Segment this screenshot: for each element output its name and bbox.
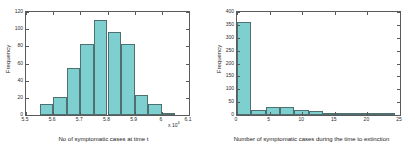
x-tick-label: 0 [235,116,238,122]
histogram-panel-left: 5.55.65.75.85.966.1 020406080100120 x 10… [0,0,207,151]
x-tick-mark [189,112,190,115]
y-tick-label: 0 [9,111,23,117]
histogram-bar [94,20,108,115]
x-tick-label: 5.9 [130,116,137,122]
y-tick-mark [26,81,29,82]
y-axis-title-left: Frequency [5,39,11,79]
x-tick-label: 25 [396,116,402,122]
y-tick-mark [26,64,29,65]
y-tick-mark [397,76,400,77]
y-tick-mark [237,25,240,26]
x-tick-mark [53,12,54,15]
y-axis-title-right: Frequency [216,39,222,79]
y-tick-label: 20 [9,94,23,100]
y-tick-mark [237,76,240,77]
y-tick-mark [237,38,240,39]
x-tick-mark [400,112,401,115]
histogram-bar [251,110,265,115]
histogram-bar [266,107,280,115]
x-tick-label: 5.6 [49,116,56,122]
y-tick-label: 120 [9,8,23,14]
x-tick-mark [80,112,81,115]
histogram-bar [337,113,351,115]
histogram-bar [40,104,54,115]
y-tick-label: 0 [220,111,234,117]
y-tick-mark [186,64,189,65]
y-tick-label: 150 [220,72,234,78]
y-tick-label: 300 [220,34,234,40]
y-tick-label: 350 [220,21,234,27]
y-tick-mark [237,102,240,103]
plot-area-left [26,12,189,115]
x-tick-label: 5 [267,116,270,122]
x-tick-mark [302,12,303,15]
plot-axes-left [25,11,190,116]
y-tick-mark [186,12,189,13]
x-tick-mark [302,112,303,115]
histogram-bar [108,32,122,115]
histogram-bar [237,22,251,115]
x-tick-label: 6 [159,116,162,122]
x-tick-mark [135,12,136,15]
x-tick-label: 15 [331,116,337,122]
histogram-bar [135,95,149,115]
x-tick-mark [367,12,368,15]
y-tick-mark [397,51,400,52]
x-tick-label: 6.1 [185,116,192,122]
y-tick-mark [237,12,240,13]
bar-series-left [26,12,189,115]
y-tick-mark [397,89,400,90]
x-tick-mark [108,112,109,115]
histogram-bar [53,97,67,115]
histogram-bar [80,44,94,115]
y-tick-mark [397,64,400,65]
x-axis-title-right: Number of symptomatic cases during the t… [208,136,415,142]
x-tick-label: 20 [364,116,370,122]
x-tick-mark [367,112,368,115]
bar-series-right [237,12,400,115]
y-tick-label: 80 [9,42,23,48]
x-tick-mark [162,112,163,115]
y-tick-mark [237,89,240,90]
y-tick-label: 40 [9,77,23,83]
x-tick-mark [53,112,54,115]
histogram-bar [380,113,394,115]
plot-axes-right [236,11,401,116]
x-axis-exponent-left: x 104 [168,120,180,128]
plot-area-right [237,12,400,115]
histogram-bar [162,113,176,115]
x-tick-label: 10 [298,116,304,122]
y-tick-mark [186,46,189,47]
exponent-power: 4 [177,120,179,125]
y-tick-mark [26,29,29,30]
y-tick-mark [26,98,29,99]
x-tick-mark [335,112,336,115]
y-tick-mark [186,98,189,99]
histogram-bar [148,104,162,115]
y-tick-mark [26,46,29,47]
y-tick-label: 400 [220,8,234,14]
x-axis-title-left: No of symptomatic cases at time t [0,136,207,142]
y-tick-mark [237,51,240,52]
histogram-bar [352,113,366,115]
y-tick-label: 50 [220,98,234,104]
histogram-panel-right: 0510152025 050100150200250300350400 Numb… [208,0,415,151]
y-tick-mark [26,12,29,13]
histogram-bar [121,44,135,115]
y-tick-mark [397,38,400,39]
y-tick-label: 100 [220,85,234,91]
x-tick-label: 5.7 [76,116,83,122]
x-tick-mark [80,12,81,15]
x-tick-mark [270,112,271,115]
y-tick-mark [186,29,189,30]
figure-two-histograms: 5.55.65.75.85.966.1 020406080100120 x 10… [0,0,415,151]
x-tick-mark [400,12,401,15]
y-tick-label: 60 [9,60,23,66]
x-tick-mark [270,12,271,15]
x-tick-mark [189,12,190,15]
y-tick-mark [186,81,189,82]
x-tick-mark [135,112,136,115]
histogram-bar [67,68,81,115]
y-tick-mark [397,102,400,103]
x-tick-mark [335,12,336,15]
